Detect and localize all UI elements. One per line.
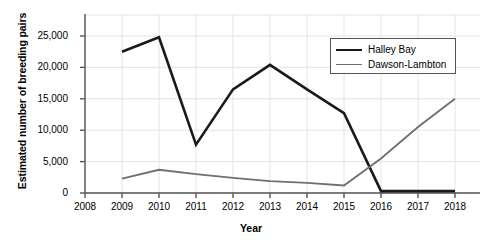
x-axis-tick-label: 2016 [361,202,401,212]
x-axis-tick-label: 2013 [250,202,290,212]
x-axis-tick-label: 2010 [139,202,179,212]
line-chart: Estimated number of breeding pairs 05,00… [0,0,502,244]
x-axis-title: Year [0,222,502,234]
chart-legend: Halley Bay Dawson-Lambton [330,38,456,74]
legend-line-swatch-icon [336,64,362,65]
x-axis-tick-label: 2015 [324,202,364,212]
data-line-dawson-lambton [122,99,455,186]
x-axis-tick-label: 2009 [102,202,142,212]
x-axis-tick-label: 2012 [213,202,253,212]
x-axis-tick-label: 2011 [176,202,216,212]
legend-label: Dawson-Lambton [368,59,446,70]
x-axis-tick-label: 2014 [287,202,327,212]
legend-item-halley-bay: Halley Bay [336,42,416,57]
x-axis-tick-label: 2018 [435,202,475,212]
legend-line-swatch-icon [336,49,362,51]
legend-item-dawson-lambton: Dawson-Lambton [336,57,446,72]
x-axis-tick-label: 2017 [398,202,438,212]
x-axis-tick-label: 2008 [65,202,105,212]
legend-label: Halley Bay [368,44,416,55]
